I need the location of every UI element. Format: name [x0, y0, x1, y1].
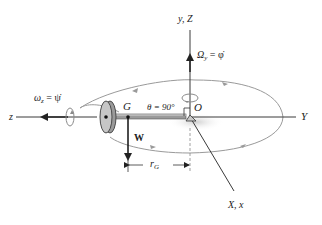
O-label: O: [194, 102, 202, 113]
omega-y-rhs: = φ̇: [210, 49, 224, 60]
omega-z-symbol: ω: [34, 92, 41, 103]
omega-z-subscript: z: [41, 97, 44, 105]
omega-y-label: Ωy = φ̇: [197, 50, 224, 62]
omega-z-rhs: = ψ̇: [46, 92, 60, 103]
weight-label: W: [134, 133, 144, 143]
disk: [100, 101, 116, 133]
omega-y-subscript: y: [204, 54, 207, 62]
diagram-canvas: [0, 0, 322, 225]
theta-label: θ = 90°: [147, 103, 175, 112]
G-label: G: [123, 101, 131, 112]
gyroscope-diagram: y, Z Ωy = φ̇ ωz = ψ̇ z Y X, x G O θ = 90…: [0, 0, 322, 225]
Y-axis-label: Y: [301, 111, 307, 122]
orbit-arrow-icon: [132, 88, 138, 93]
rG-subscript: G: [154, 163, 159, 171]
orbit-arrow-icon: [222, 82, 228, 86]
z-axis-label: z: [9, 112, 13, 122]
X-axis-label: X, x: [228, 200, 244, 210]
omega-z-label: ωz = ψ̇: [34, 93, 61, 105]
rG-label: rG: [150, 159, 159, 171]
orbit-arrow-icon: [150, 145, 156, 149]
vertical-axis-label: y, Z: [178, 14, 192, 24]
